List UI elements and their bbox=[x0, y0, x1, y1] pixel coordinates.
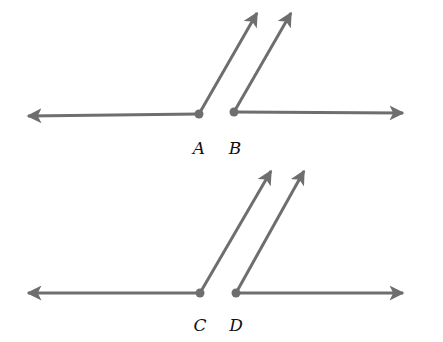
vertex-label-a: A bbox=[193, 140, 205, 157]
vertex-point-a bbox=[195, 110, 204, 119]
rays-group bbox=[28, 13, 403, 293]
ray-c-1 bbox=[200, 171, 271, 293]
angle-diagram: A B C D bbox=[0, 0, 443, 342]
vertex-label-b: B bbox=[229, 140, 242, 157]
angle-figure bbox=[0, 0, 443, 342]
ray-b-1 bbox=[234, 112, 403, 113]
vertex-label-c: C bbox=[193, 317, 206, 334]
ray-a-1 bbox=[199, 13, 257, 114]
vertex-point-c bbox=[196, 289, 205, 298]
vertices-group bbox=[195, 108, 241, 298]
vertex-point-d bbox=[232, 289, 241, 298]
ray-a-0 bbox=[28, 114, 199, 116]
vertex-label-d: D bbox=[229, 317, 243, 334]
vertex-point-b bbox=[230, 108, 239, 117]
ray-b-0 bbox=[234, 13, 291, 112]
ray-d-0 bbox=[236, 171, 304, 293]
